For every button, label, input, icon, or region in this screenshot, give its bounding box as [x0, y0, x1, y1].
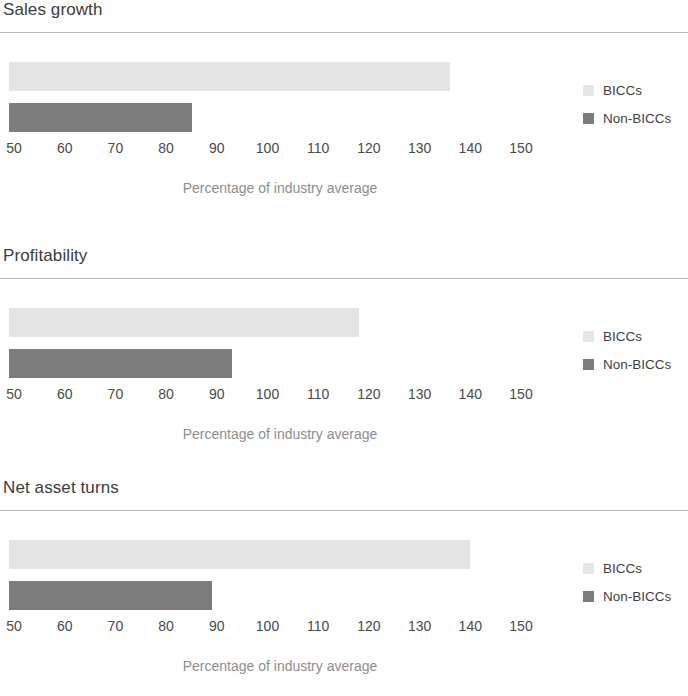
legend: BICCs Non-BICCs	[583, 82, 688, 128]
panel-title: Profitability	[3, 246, 87, 266]
legend-item-biccs: BICCs	[583, 328, 642, 344]
x-axis-tick-label: 140	[459, 618, 482, 634]
legend-label-non-biccs: Non-BICCs	[603, 589, 671, 604]
bar-non-biccs	[9, 103, 192, 132]
x-axis-tick-label: 50	[6, 386, 22, 402]
bar-biccs	[9, 62, 450, 91]
x-axis-tick-label: 130	[408, 618, 431, 634]
x-axis-tick-label: 90	[209, 618, 225, 634]
x-axis-tick-label: 90	[209, 386, 225, 402]
legend-label-non-biccs: Non-BICCs	[603, 111, 671, 126]
panel-title: Sales growth	[3, 0, 102, 20]
x-axis-tick-label: 120	[357, 618, 380, 634]
x-axis-caption: Percentage of industry average	[0, 180, 560, 196]
bar-non-biccs	[9, 349, 232, 378]
title-divider	[0, 278, 688, 279]
x-axis-tick-label: 100	[256, 618, 279, 634]
legend-label-biccs: BICCs	[603, 83, 642, 98]
legend-item-non-biccs: Non-BICCs	[583, 588, 671, 604]
x-axis: 5060708090100110120130140150	[0, 386, 560, 402]
title-divider	[0, 510, 688, 511]
legend-swatch-biccs-icon	[583, 563, 594, 574]
legend-swatch-biccs-icon	[583, 331, 594, 342]
x-axis-tick-label: 110	[307, 386, 329, 402]
x-axis-tick-label: 130	[408, 140, 431, 156]
x-axis-tick-label: 150	[509, 618, 532, 634]
legend-label-biccs: BICCs	[603, 561, 642, 576]
legend-label-non-biccs: Non-BICCs	[603, 357, 671, 372]
x-axis-tick-label: 80	[158, 618, 174, 634]
x-axis-tick-label: 100	[256, 140, 279, 156]
x-axis-tick-label: 130	[408, 386, 431, 402]
chart-panel-sales-growth: Sales growth 506070809010011012013014015…	[0, 0, 688, 232]
legend: BICCs Non-BICCs	[583, 328, 688, 374]
x-axis-tick-label: 100	[256, 386, 279, 402]
x-axis-tick-label: 80	[158, 140, 174, 156]
x-axis-tick-label: 120	[357, 386, 380, 402]
bar-non-biccs	[9, 581, 212, 610]
x-axis-tick-label: 150	[509, 140, 532, 156]
legend-item-biccs: BICCs	[583, 82, 642, 98]
figure-page: Sales growth 506070809010011012013014015…	[0, 0, 688, 696]
title-divider	[0, 32, 688, 33]
x-axis-tick-label: 140	[459, 386, 482, 402]
legend-swatch-biccs-icon	[583, 85, 594, 96]
plot-area	[7, 536, 547, 614]
x-axis-tick-label: 120	[357, 140, 380, 156]
x-axis-caption: Percentage of industry average	[0, 426, 560, 442]
legend-item-non-biccs: Non-BICCs	[583, 110, 671, 126]
bar-biccs	[9, 540, 470, 569]
legend-label-biccs: BICCs	[603, 329, 642, 344]
x-axis: 5060708090100110120130140150	[0, 140, 560, 156]
x-axis-tick-label: 60	[57, 386, 73, 402]
legend-swatch-non-biccs-icon	[583, 591, 594, 602]
panel-title: Net asset turns	[3, 478, 119, 498]
chart-panel-profitability: Profitability 50607080901001101201301401…	[0, 246, 688, 478]
x-axis-tick-label: 110	[307, 140, 329, 156]
x-axis-tick-label: 80	[158, 386, 174, 402]
x-axis-caption: Percentage of industry average	[0, 658, 560, 674]
x-axis-tick-label: 140	[459, 140, 482, 156]
x-axis-tick-label: 70	[108, 386, 124, 402]
legend-item-biccs: BICCs	[583, 560, 642, 576]
legend-swatch-non-biccs-icon	[583, 113, 594, 124]
legend-item-non-biccs: Non-BICCs	[583, 356, 671, 372]
x-axis-tick-label: 150	[509, 386, 532, 402]
x-axis-tick-label: 50	[6, 140, 22, 156]
x-axis-tick-label: 50	[6, 618, 22, 634]
legend: BICCs Non-BICCs	[583, 560, 688, 606]
x-axis-tick-label: 60	[57, 140, 73, 156]
x-axis-tick-label: 90	[209, 140, 225, 156]
plot-area	[7, 58, 547, 136]
plot-area	[7, 304, 547, 382]
x-axis-tick-label: 70	[108, 140, 124, 156]
legend-swatch-non-biccs-icon	[583, 359, 594, 370]
x-axis-tick-label: 110	[307, 618, 329, 634]
x-axis: 5060708090100110120130140150	[0, 618, 560, 634]
bar-biccs	[9, 308, 359, 337]
x-axis-tick-label: 70	[108, 618, 124, 634]
x-axis-tick-label: 60	[57, 618, 73, 634]
chart-panel-net-asset-turns: Net asset turns 506070809010011012013014…	[0, 478, 688, 696]
